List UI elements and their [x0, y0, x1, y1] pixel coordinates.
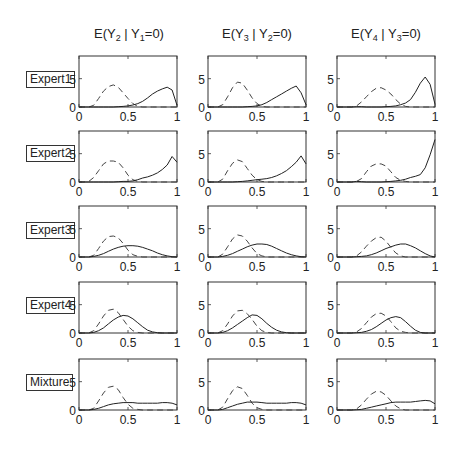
- y-tick-label: 5: [69, 223, 76, 237]
- solid-density-curve: [79, 157, 177, 183]
- density-panel: 00.5105: [198, 359, 309, 427]
- y-tick-label: 5: [327, 223, 334, 237]
- y-tick-label: 5: [198, 376, 205, 390]
- x-tick-label: 1: [303, 413, 310, 427]
- x-tick-label: 0: [76, 185, 83, 199]
- x-tick-label: 0.5: [249, 413, 266, 427]
- x-tick-label: 0: [76, 260, 83, 274]
- axes-frame: [208, 131, 306, 182]
- dashed-density-curve: [208, 160, 306, 182]
- x-tick-label: 0: [334, 110, 341, 124]
- axes-frame: [337, 56, 435, 107]
- y-tick-label: 0: [69, 101, 76, 115]
- x-tick-label: 0.5: [378, 413, 395, 427]
- y-tick-label: 0: [69, 251, 76, 265]
- density-panel: 00.5105: [327, 56, 438, 124]
- density-panel: 00.5105: [327, 131, 438, 199]
- x-tick-label: 1: [303, 185, 310, 199]
- y-tick-label: 5: [198, 73, 205, 87]
- dashed-density-curve: [79, 386, 177, 410]
- y-tick-label: 0: [198, 251, 205, 265]
- density-panel: 00.5105: [327, 206, 438, 274]
- x-tick-label: 0: [76, 336, 83, 350]
- dashed-density-curve: [208, 82, 306, 107]
- x-tick-label: 0.5: [249, 260, 266, 274]
- axes-frame: [208, 56, 306, 107]
- y-tick-label: 0: [327, 176, 334, 190]
- y-tick-label: 5: [327, 299, 334, 313]
- density-panel: 00.5105: [198, 56, 309, 124]
- dashed-density-curve: [208, 310, 306, 333]
- dashed-density-curve: [208, 235, 306, 257]
- x-tick-label: 1: [303, 260, 310, 274]
- x-tick-label: 0.5: [249, 336, 266, 350]
- dashed-density-curve: [208, 387, 306, 410]
- dashed-density-curve: [79, 236, 177, 257]
- x-tick-label: 0.5: [249, 185, 266, 199]
- y-tick-label: 5: [198, 299, 205, 313]
- x-tick-label: 0.5: [120, 260, 137, 274]
- y-tick-label: 5: [198, 148, 205, 162]
- solid-density-curve: [337, 140, 435, 183]
- x-tick-label: 1: [432, 185, 439, 199]
- dashed-density-curve: [79, 309, 177, 333]
- x-tick-label: 0: [334, 413, 341, 427]
- x-tick-label: 0: [205, 185, 212, 199]
- x-tick-label: 1: [303, 336, 310, 350]
- x-tick-label: 0.5: [249, 110, 266, 124]
- x-tick-label: 1: [432, 110, 439, 124]
- y-tick-label: 5: [198, 223, 205, 237]
- x-tick-label: 1: [432, 336, 439, 350]
- density-panel: 00.5105: [198, 131, 309, 199]
- x-tick-label: 0: [334, 260, 341, 274]
- y-tick-label: 0: [198, 327, 205, 341]
- density-panel: 00.5105: [69, 206, 180, 274]
- y-tick-label: 5: [69, 73, 76, 87]
- x-tick-label: 0: [205, 110, 212, 124]
- dashed-density-curve: [79, 161, 177, 182]
- x-tick-label: 1: [174, 260, 181, 274]
- y-tick-label: 0: [327, 251, 334, 265]
- x-tick-label: 0.5: [120, 413, 137, 427]
- x-tick-label: 0: [205, 336, 212, 350]
- axes-frame: [337, 282, 435, 333]
- y-tick-label: 0: [327, 327, 334, 341]
- y-tick-label: 0: [198, 404, 205, 418]
- y-tick-label: 0: [198, 176, 205, 190]
- y-tick-label: 0: [198, 101, 205, 115]
- density-panel: 00.5105: [69, 56, 180, 124]
- y-tick-label: 0: [69, 327, 76, 341]
- y-tick-label: 5: [69, 148, 76, 162]
- density-panel: 00.5105: [69, 282, 180, 350]
- y-tick-label: 0: [327, 404, 334, 418]
- x-tick-label: 0: [76, 110, 83, 124]
- density-panel: 00.5105: [69, 359, 180, 427]
- density-panel: 00.5105: [327, 282, 438, 350]
- x-tick-label: 0: [205, 260, 212, 274]
- density-panel: 00.5105: [198, 282, 309, 350]
- x-tick-label: 1: [174, 336, 181, 350]
- dashed-density-curve: [79, 85, 177, 107]
- x-tick-label: 0.5: [378, 336, 395, 350]
- x-tick-label: 0: [76, 413, 83, 427]
- x-tick-label: 0.5: [378, 110, 395, 124]
- x-tick-label: 1: [174, 185, 181, 199]
- axes-frame: [208, 282, 306, 333]
- x-tick-label: 1: [174, 413, 181, 427]
- y-tick-label: 5: [327, 73, 334, 87]
- axes-frame: [337, 359, 435, 410]
- axes-frame: [337, 206, 435, 257]
- axes-frame: [79, 282, 177, 333]
- x-tick-label: 1: [432, 413, 439, 427]
- x-tick-label: 1: [174, 110, 181, 124]
- y-tick-label: 0: [69, 404, 76, 418]
- y-tick-label: 5: [69, 376, 76, 390]
- y-tick-label: 0: [69, 176, 76, 190]
- x-tick-label: 1: [303, 110, 310, 124]
- solid-density-curve: [208, 156, 306, 182]
- x-tick-label: 0: [334, 336, 341, 350]
- x-tick-label: 0.5: [120, 336, 137, 350]
- y-tick-label: 5: [327, 148, 334, 162]
- x-tick-label: 1: [432, 260, 439, 274]
- x-tick-label: 0.5: [378, 185, 395, 199]
